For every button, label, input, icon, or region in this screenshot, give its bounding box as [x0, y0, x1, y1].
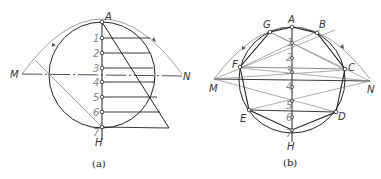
label-a-n: N [183, 71, 191, 82]
figure-b: A B C D E F G M N H 1 2 3 4 5 6 7 (b) [209, 14, 375, 168]
construction-line-a [35, 60, 102, 127]
svg-text:3: 3 [286, 65, 292, 76]
svg-text:6: 6 [286, 112, 292, 123]
label-a-h: H [95, 137, 103, 148]
label-b-e: E [240, 113, 247, 124]
caption-b: (b) [283, 157, 297, 168]
svg-text:4: 4 [286, 81, 292, 92]
svg-text:5: 5 [286, 100, 292, 111]
svg-text:2: 2 [93, 48, 99, 59]
label-a-top: A [104, 11, 112, 22]
svg-text:4: 4 [93, 77, 99, 88]
svg-text:2: 2 [286, 52, 292, 63]
svg-text:6: 6 [93, 107, 99, 118]
label-b-b: B [319, 19, 326, 30]
figure-a: A M N H 1 2 3 4 5 6 7 (a) [10, 11, 191, 169]
diagram-canvas: A M N H 1 2 3 4 5 6 7 (a) [0, 0, 381, 179]
label-a-m: M [10, 69, 19, 80]
caption-a: (a) [92, 158, 106, 169]
svg-text:5: 5 [93, 92, 99, 103]
svg-text:3: 3 [93, 63, 99, 74]
label-b-h: H [287, 141, 295, 152]
svg-text:7: 7 [93, 127, 100, 138]
label-b-f: F [232, 59, 238, 70]
label-b-c: C [348, 62, 355, 73]
label-b-n: N [367, 84, 375, 95]
svg-text:7: 7 [286, 128, 293, 139]
svg-text:1: 1 [93, 33, 99, 44]
label-b-d: D [338, 111, 346, 122]
svg-text:1: 1 [287, 37, 293, 48]
label-b-m: M [209, 83, 218, 94]
label-b-g: G [263, 19, 271, 30]
label-b-a: A [287, 14, 295, 25]
